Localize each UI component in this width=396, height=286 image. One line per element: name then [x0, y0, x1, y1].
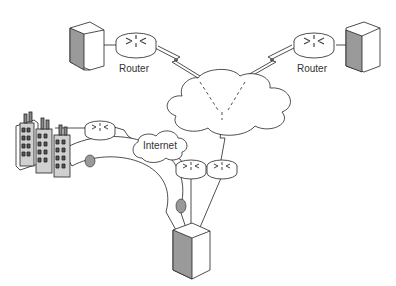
router-left-icon: [116, 33, 156, 58]
router-bottom-a-icon: [176, 160, 206, 179]
server-left: [70, 22, 104, 70]
server-right: [346, 22, 380, 72]
router-left-label: Router: [119, 63, 149, 74]
router-right-label: Router: [297, 63, 327, 74]
network-diagram: Router Router Internet: [0, 0, 396, 286]
internet-label: Internet: [143, 140, 177, 151]
wan-cloud-shape: [167, 69, 290, 135]
server-bottom: [173, 223, 210, 279]
router-bottom-b-icon: [207, 160, 237, 179]
office-buildings: [16, 112, 70, 177]
router-building-icon: [85, 121, 115, 140]
router-right-icon: [294, 33, 334, 58]
